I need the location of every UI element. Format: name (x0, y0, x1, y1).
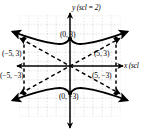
plot-canvas (0, 0, 142, 135)
label-corner-bottom-left: (−5, −3) (0, 72, 23, 80)
y-axis-label: y (scl = 2) (72, 4, 100, 11)
x-axis-label: x (scl (124, 62, 139, 69)
point-corner-bottom-right (114, 92, 118, 96)
label-corner-bottom-right: (5, −3) (92, 72, 111, 80)
label-corner-top-right: (5, 3) (94, 50, 109, 58)
label-vertex-bottom: (0, −3) (59, 93, 78, 101)
point-corner-top-right (114, 36, 118, 40)
hyperbola-figure: y (scl = 2) x (scl (0, 3) (0, −3) (−5, 3… (0, 0, 142, 135)
point-corner-top-left (22, 36, 26, 40)
label-vertex-top: (0, 3) (60, 31, 75, 39)
label-corner-top-left: (−5, 3) (2, 50, 21, 58)
point-corner-bottom-left (22, 92, 26, 96)
